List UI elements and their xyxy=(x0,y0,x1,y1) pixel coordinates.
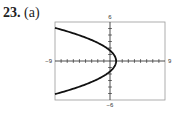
x-min-label: −9 xyxy=(45,58,53,64)
x-max-label: 9 xyxy=(168,58,172,64)
y-min-label: −6 xyxy=(107,102,115,108)
y-max-label: 6 xyxy=(108,14,112,20)
graph: 6 −6 −9 9 xyxy=(0,0,185,114)
